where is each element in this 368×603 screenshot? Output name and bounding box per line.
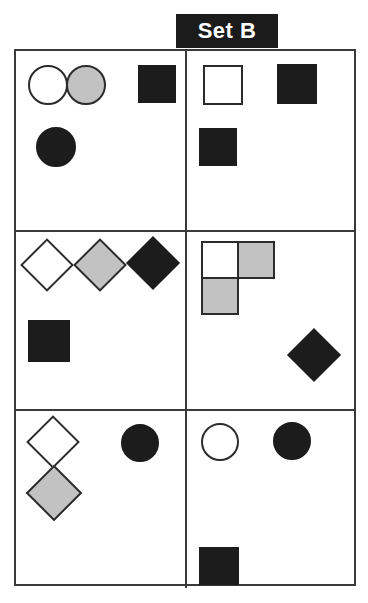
square-white-top-left: [201, 241, 239, 279]
square-black: [28, 320, 70, 362]
square-black-upper: [277, 64, 317, 104]
diamond-black: [126, 236, 180, 290]
circle-black: [273, 422, 311, 460]
matrix-cell-1-right[interactable]: [185, 51, 354, 230]
matrix-cell-3-left[interactable]: [16, 411, 185, 588]
diamond-black: [287, 328, 341, 382]
matrix-cell-1-left[interactable]: [16, 51, 185, 230]
figure-matrix: [14, 49, 356, 586]
matrix-row-3: [16, 409, 354, 588]
square-black: [138, 65, 176, 103]
diamond-white: [26, 415, 80, 469]
diamond-gray: [26, 465, 83, 522]
set-label-text: Set B: [198, 20, 257, 42]
circle-white: [201, 423, 239, 461]
diamond-gray: [73, 238, 127, 292]
circle-gray: [66, 65, 106, 105]
circle-black: [36, 127, 76, 167]
circle-white: [28, 65, 68, 105]
square-black-lower: [199, 128, 237, 166]
circle-black: [121, 424, 159, 462]
square-white: [203, 65, 243, 105]
square-gray-bottom-left: [201, 277, 239, 315]
set-label-banner: Set B: [176, 14, 278, 48]
square-gray-top-right: [237, 241, 275, 279]
matrix-row-2: [16, 230, 354, 409]
square-black: [199, 547, 239, 585]
diamond-white: [20, 238, 74, 292]
matrix-row-1: [16, 51, 354, 230]
matrix-cell-2-left[interactable]: [16, 232, 185, 409]
matrix-cell-3-right[interactable]: [185, 411, 354, 588]
matrix-cell-2-right[interactable]: [185, 232, 354, 409]
